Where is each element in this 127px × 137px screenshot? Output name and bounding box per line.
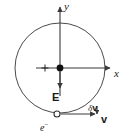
x-axis-label: x	[114, 68, 119, 79]
delta-velocity-label: δv	[88, 98, 97, 114]
electron-label: e−	[40, 122, 48, 133]
nucleus-charge-plus-icon	[42, 65, 49, 72]
y-axis-label: y	[64, 1, 69, 12]
nucleus-dot	[57, 65, 64, 72]
velocity-label: v	[101, 114, 107, 125]
diagram-canvas	[0, 0, 127, 137]
electric-field-label: E	[52, 92, 59, 103]
physics-diagram-figure: y x E δv v e−	[0, 0, 127, 137]
delta-velocity-vector-symbol: v	[92, 102, 97, 113]
electron-dot	[54, 111, 60, 117]
electron-charge-sign: −	[44, 121, 48, 129]
